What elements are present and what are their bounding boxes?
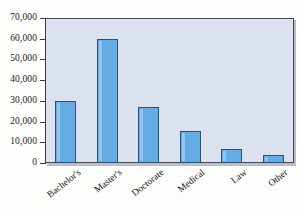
bar-series: [45, 18, 294, 163]
bar: [55, 101, 76, 163]
y-axis-tick-label: 40,000: [10, 75, 37, 85]
y-axis-tick-label: 50,000: [10, 54, 37, 64]
bar: [221, 149, 242, 163]
y-axis-tick-label: 10,000: [10, 137, 37, 147]
bar: [263, 155, 284, 163]
bar-highlight: [99, 41, 102, 161]
x-axis-labels: Bachelor'sMaster'sDoctorateMedicalLawOth…: [45, 164, 294, 218]
bar: [180, 131, 201, 163]
y-axis-tick-label: 70,000: [10, 13, 37, 23]
bar-highlight: [57, 103, 60, 161]
bar-highlight: [140, 109, 143, 161]
y-axis-tick-label: 0: [32, 158, 37, 168]
bar-highlight: [265, 157, 268, 161]
bar-highlight: [223, 151, 226, 161]
bar-chart: 010,00020,00030,00040,00050,00060,00070,…: [0, 0, 299, 218]
y-axis-tick-label: 30,000: [10, 96, 37, 106]
bar: [97, 39, 118, 163]
bar: [138, 107, 159, 163]
bar-highlight: [182, 133, 185, 161]
y-axis-tick-label: 60,000: [10, 34, 37, 44]
y-axis-tick-label: 20,000: [10, 117, 37, 127]
